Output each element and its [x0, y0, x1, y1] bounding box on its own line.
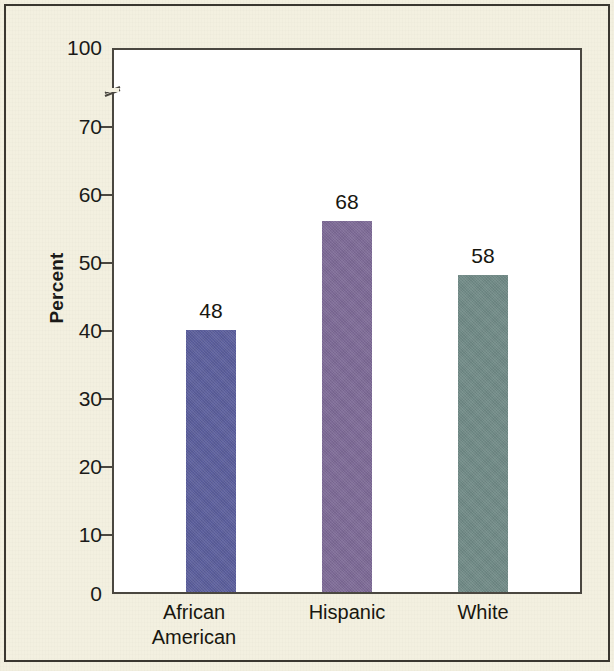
bar-value-label-white: 58 [471, 244, 494, 268]
x-tick-label-white: White [403, 600, 563, 625]
y-tick-label-70: 70 [46, 115, 102, 139]
y-tick-mark-40 [100, 330, 114, 332]
x-tick-label-african-american: African American [114, 600, 274, 650]
y-tick-label-0: 0 [46, 582, 102, 606]
y-tick-label-30: 30 [46, 387, 102, 411]
figure-root: 48 68 58 Percent [0, 0, 614, 671]
y-tick-mark-70 [100, 126, 114, 128]
bar-african-american[interactable]: 48 [186, 330, 236, 592]
y-tick-label-60: 60 [46, 183, 102, 207]
y-tick-label-20: 20 [46, 455, 102, 479]
y-tick-mark-30 [100, 398, 114, 400]
y-tick-label-40: 40 [46, 319, 102, 343]
axis-break-icon [104, 82, 122, 99]
y-tick-mark-50 [100, 262, 114, 264]
plot-area: 48 68 58 [112, 48, 582, 594]
y-tick-label-50: 50 [46, 251, 102, 275]
bar-chart: 48 68 58 Percent [0, 0, 614, 671]
y-tick-label-10: 10 [46, 523, 102, 547]
y-tick-label-100: 100 [46, 36, 102, 60]
bar-white[interactable]: 58 [458, 275, 508, 592]
bar-texture [458, 275, 508, 592]
bar-hispanic[interactable]: 68 [322, 221, 372, 592]
bar-texture [186, 330, 236, 592]
bar-value-label-african-american: 48 [199, 299, 222, 323]
y-tick-mark-10 [100, 534, 114, 536]
y-tick-mark-20 [100, 466, 114, 468]
bar-value-label-hispanic: 68 [335, 190, 358, 214]
y-axis-tick-labels: 100 70 60 50 40 30 20 10 0 [40, 0, 102, 671]
y-tick-mark-60 [100, 194, 114, 196]
bar-texture [322, 221, 372, 592]
